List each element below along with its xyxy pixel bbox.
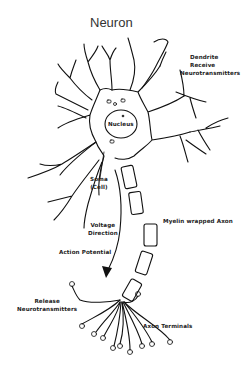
action-potential-arrowhead [102, 266, 112, 278]
release-label: Release Neurotransmitters [17, 298, 77, 314]
action-potential-label: Action Potential [59, 249, 111, 257]
axon-terminals [70, 282, 173, 355]
neuron-diagram: Neuron Dendrite Receive Neurotransmitter… [0, 0, 248, 375]
voltage-direction-label: Voltage Direction [88, 222, 118, 238]
diagram-title: Neuron [90, 15, 133, 30]
myelin-label: Myelin wrapped Axon [163, 218, 233, 226]
nucleus-label: Nucleus [108, 121, 134, 129]
axon-terminals-label: Axon Terminals [143, 323, 192, 331]
soma-label: Soma (Cell) [90, 176, 108, 192]
myelin-segments [121, 165, 157, 302]
dendrite-label: Dendrite Receive Neurotransmitters [188, 54, 240, 77]
